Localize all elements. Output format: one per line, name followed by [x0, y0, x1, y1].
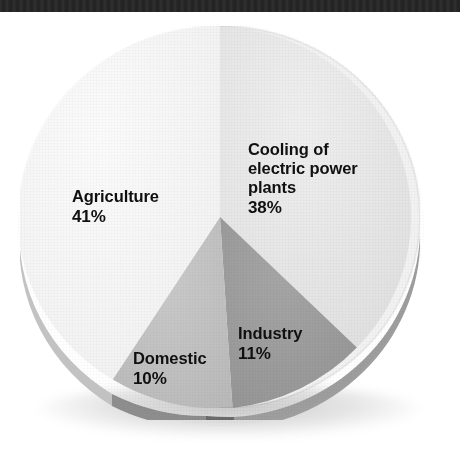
- pie-label-agriculture-value: 41%: [72, 207, 212, 227]
- pie-label-domestic: Domestic 10%: [133, 349, 248, 389]
- top-band-texture: [0, 0, 460, 12]
- pie-label-industry-title: Industry: [238, 324, 348, 343]
- pie-label-industry-value: 11%: [238, 344, 348, 364]
- pie-label-industry: Industry 11%: [238, 324, 348, 364]
- pie-side-band-industry: [206, 416, 234, 420]
- top-black-band: [0, 0, 460, 12]
- pie-label-cooling-value: 38%: [248, 198, 398, 218]
- pie-label-cooling: Cooling of electric power plants 38%: [248, 140, 398, 218]
- pie-label-agriculture-title: Agriculture: [72, 187, 212, 206]
- pie-label-domestic-value: 10%: [133, 369, 248, 389]
- pie-label-cooling-title: Cooling of electric power plants: [248, 140, 398, 197]
- pie-label-agriculture: Agriculture 41%: [72, 187, 212, 227]
- pie-label-domestic-title: Domestic: [133, 349, 248, 368]
- pie-chart-figure: Cooling of electric power plants 38% Agr…: [0, 12, 460, 458]
